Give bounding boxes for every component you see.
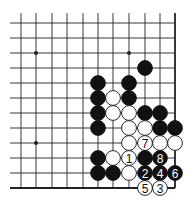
- move-number-label: 8: [157, 152, 164, 166]
- white-stone: [106, 151, 121, 166]
- black-stone: 2: [138, 166, 153, 181]
- white-stone: [138, 121, 153, 136]
- white-stone: [106, 91, 121, 106]
- black-stone: [153, 106, 168, 121]
- black-stone: [168, 121, 183, 136]
- star-point: [127, 51, 131, 55]
- star-point: [34, 51, 38, 55]
- white-stone: [122, 136, 137, 151]
- move-number-label: 3: [157, 182, 164, 196]
- black-stone: [122, 76, 137, 91]
- black-stone: [122, 91, 137, 106]
- black-stone: [91, 106, 106, 121]
- black-stone: [138, 61, 153, 76]
- white-stone: 3: [153, 181, 168, 196]
- move-number-label: 4: [157, 167, 164, 181]
- black-stone: [138, 106, 153, 121]
- black-stone: [91, 91, 106, 106]
- white-stone: [122, 166, 137, 181]
- black-stone: [153, 121, 168, 136]
- go-board: 71824653: [0, 0, 190, 204]
- white-stone: [168, 136, 183, 151]
- white-stone: 1: [122, 151, 137, 166]
- black-stone: 4: [153, 166, 168, 181]
- move-number-label: 6: [172, 167, 179, 181]
- move-number-label: 5: [142, 182, 149, 196]
- white-stone: 7: [138, 136, 153, 151]
- black-stone: [91, 151, 106, 166]
- white-stone: [153, 136, 168, 151]
- white-stone: [106, 106, 121, 121]
- white-stone: 5: [138, 181, 153, 196]
- black-stone: [106, 166, 121, 181]
- black-stone: [91, 76, 106, 91]
- black-stone: [91, 166, 106, 181]
- black-stone: [138, 151, 153, 166]
- black-stone: [91, 121, 106, 136]
- move-number-label: 2: [142, 167, 149, 181]
- black-stone: 8: [153, 151, 168, 166]
- move-number-label: 7: [142, 137, 149, 151]
- move-number-label: 1: [126, 152, 133, 166]
- stones: 71824653: [91, 61, 183, 196]
- white-stone: [122, 106, 137, 121]
- white-stone: [122, 121, 137, 136]
- star-point: [34, 141, 38, 145]
- black-stone: 6: [168, 166, 183, 181]
